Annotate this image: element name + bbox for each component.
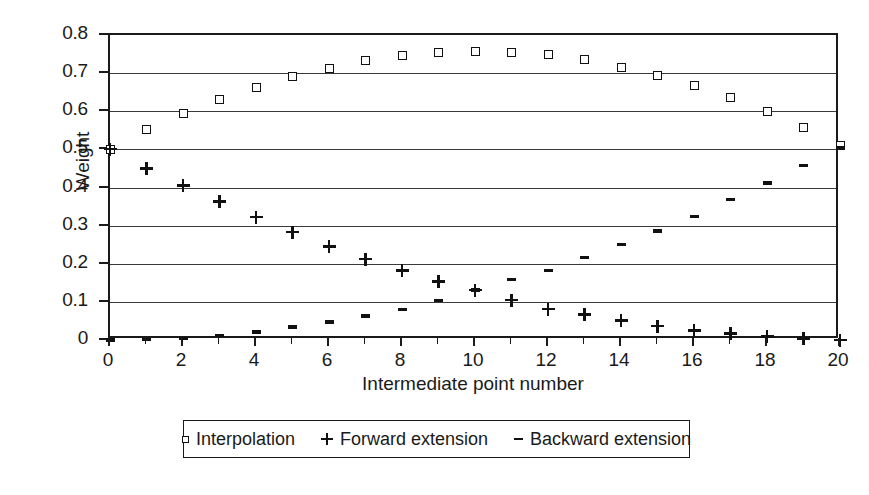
x-tick-mark-major [838, 338, 840, 346]
data-point-plus [651, 320, 664, 333]
data-point-dash [142, 338, 151, 341]
data-point-dash [398, 308, 407, 311]
legend-marker-plus-icon [321, 433, 333, 445]
x-tick-label: 18 [745, 349, 785, 371]
data-point-dash [617, 243, 626, 246]
x-tick-mark-major [473, 338, 475, 346]
legend-item: Forward extension [321, 429, 488, 450]
y-tick-mark [99, 71, 108, 73]
data-point-dash [361, 314, 370, 317]
x-tick-label: 2 [161, 349, 201, 371]
data-point-dash [325, 320, 334, 323]
data-point-dash [580, 256, 589, 259]
data-point-square [726, 93, 735, 102]
y-tick-label: 0 [30, 328, 88, 347]
x-tick-mark-major [546, 338, 548, 346]
data-point-square [763, 107, 772, 116]
data-point-plus [834, 334, 847, 347]
data-point-plus [213, 195, 226, 208]
data-point-dash [507, 278, 516, 281]
data-point-square [544, 50, 553, 59]
data-point-dash [836, 146, 845, 149]
data-point-square [617, 63, 626, 72]
data-point-plus [761, 330, 774, 343]
x-tick-mark-major [765, 338, 767, 346]
data-point-dash [252, 330, 261, 333]
data-point-dash [690, 215, 699, 218]
data-point-dash [544, 269, 553, 272]
gridline [110, 111, 836, 112]
y-tick-mark [99, 186, 108, 188]
plot-area [108, 33, 838, 338]
x-tick-label: 12 [526, 349, 566, 371]
gridline [110, 226, 836, 227]
legend-label: Forward extension [340, 429, 488, 450]
x-tick-mark-minor [802, 338, 803, 344]
data-point-plus [724, 327, 737, 340]
data-point-square [580, 55, 589, 64]
x-tick-mark-minor [729, 338, 730, 344]
x-tick-mark-major [692, 338, 694, 346]
y-tick-label: 0.3 [30, 214, 88, 233]
x-tick-label: 4 [234, 349, 274, 371]
data-point-plus [797, 332, 810, 345]
data-point-plus [177, 179, 190, 192]
x-tick-mark-major [327, 338, 329, 346]
x-tick-label: 14 [599, 349, 639, 371]
data-point-square [142, 125, 151, 134]
data-point-square [252, 83, 261, 92]
x-tick-label: 16 [672, 349, 712, 371]
legend-label: Interpolation [196, 429, 295, 450]
data-point-dash [179, 337, 188, 340]
gridline [110, 264, 836, 265]
data-point-square [799, 123, 808, 132]
data-point-dash [471, 288, 480, 291]
y-tick-mark [99, 224, 108, 226]
x-tick-mark-minor [145, 338, 146, 344]
legend-marker-square-icon [182, 436, 189, 443]
data-point-square [325, 64, 334, 73]
x-tick-label: 8 [380, 349, 420, 371]
data-point-square [507, 48, 516, 57]
data-point-dash [763, 181, 772, 184]
x-tick-mark-major [619, 338, 621, 346]
x-tick-label: 0 [88, 349, 128, 371]
legend-item: Interpolation [182, 429, 295, 450]
x-tick-mark-minor [218, 338, 219, 344]
x-tick-mark-major [254, 338, 256, 346]
gridline [110, 73, 836, 74]
y-tick-label: 0.2 [30, 252, 88, 271]
y-tick-label: 0.6 [30, 99, 88, 118]
x-tick-mark-minor [364, 338, 365, 344]
y-tick-mark [99, 300, 108, 302]
x-tick-mark-minor [583, 338, 584, 344]
y-tick-label: 0.7 [30, 61, 88, 80]
x-tick-mark-minor [656, 338, 657, 344]
x-axis-label: Intermediate point number [108, 373, 838, 395]
data-point-dash [726, 198, 735, 201]
gridline [110, 188, 836, 189]
y-tick-label: 0.5 [30, 137, 88, 156]
data-point-dash [653, 229, 662, 232]
y-tick-label: 0.8 [30, 23, 88, 42]
legend-marker-dash-icon [514, 438, 523, 441]
data-point-square [361, 56, 370, 65]
data-point-plus [104, 143, 117, 156]
data-point-plus [286, 226, 299, 239]
data-point-plus [505, 294, 518, 307]
data-point-plus [542, 303, 555, 316]
legend-item: Backward extension [514, 429, 691, 450]
y-tick-mark [99, 33, 108, 35]
data-point-plus [323, 240, 336, 253]
legend-label: Backward extension [530, 429, 691, 450]
x-tick-mark-major [400, 338, 402, 346]
data-point-dash [288, 325, 297, 328]
data-point-plus [615, 314, 628, 327]
gridline [110, 149, 836, 150]
data-point-plus [688, 324, 701, 337]
gridline [110, 302, 836, 303]
data-point-dash [106, 338, 115, 341]
y-tick-mark [99, 109, 108, 111]
x-tick-mark-minor [510, 338, 511, 344]
chart-legend: InterpolationForward extensionBackward e… [183, 420, 690, 458]
